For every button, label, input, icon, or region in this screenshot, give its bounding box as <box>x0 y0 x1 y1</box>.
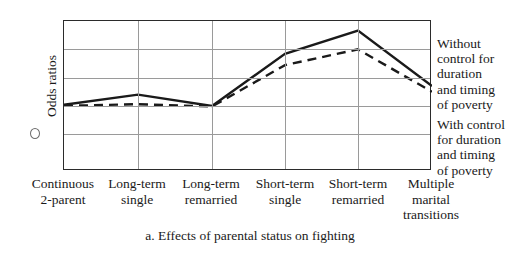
figure-caption: a. Effects of parental status on fightin… <box>0 228 500 244</box>
legend-line: control for <box>437 51 528 66</box>
x-axis-labels: Continuous 2-parent Long-term single Lon… <box>0 176 528 236</box>
scan-artifact-icon <box>30 128 40 139</box>
x-tick-line: transitions <box>383 207 479 223</box>
x-tick-line: marital <box>383 192 479 208</box>
legend-line: and timing <box>437 147 528 162</box>
y-axis-label: Odds ratios <box>44 26 60 146</box>
legend-line: of poverty <box>437 163 528 178</box>
x-tick-label-multiple-marital-transitions: Multiple marital transitions <box>383 176 479 223</box>
x-tick-line: Multiple <box>383 176 479 192</box>
legend-entry-without-control: Without control for duration and timing … <box>437 36 528 112</box>
legend-line: Without <box>437 36 528 51</box>
figure-panel: 2.5 2.0 1.5 1.0 0.5 Odds ratios Continuo… <box>0 0 528 256</box>
legend-line: duration <box>437 66 528 81</box>
legend-line: and timing <box>437 82 528 97</box>
legend-line: of poverty <box>437 97 528 112</box>
legend-entry-with-control: With control for duration and timing of … <box>437 117 528 178</box>
legend-line: for duration <box>437 132 528 147</box>
legend-line: With control <box>437 117 528 132</box>
